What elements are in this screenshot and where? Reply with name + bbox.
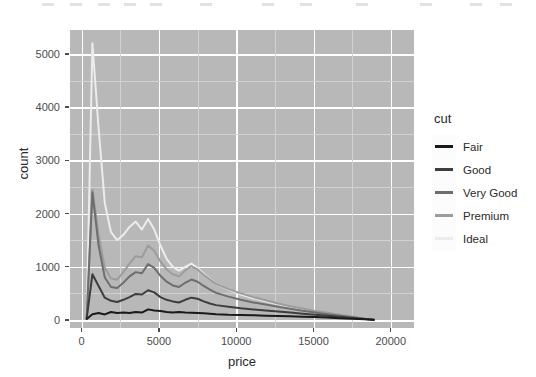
x-tick-mark [81, 328, 82, 332]
chart-page: 010002000300040005000 050001000015000200… [0, 0, 536, 377]
y-tick-label: 4000 [14, 102, 60, 112]
legend-line-icon [435, 168, 453, 170]
x-tick-label: 10000 [201, 336, 271, 347]
legend-line-icon [435, 214, 453, 216]
legend-line-icon [435, 191, 453, 193]
x-tick-mark [236, 328, 237, 332]
legend-key-swatch [432, 158, 456, 181]
legend-line-icon [435, 237, 453, 239]
legend-line-icon [435, 145, 453, 147]
legend: cut FairGoodVery GoodPremiumIdeal [432, 111, 532, 250]
legend-item-label: Ideal [463, 233, 488, 245]
legend-item-label: Premium [463, 210, 509, 222]
legend-item-premium[interactable]: Premium [432, 204, 532, 227]
series-line-very-good [87, 192, 374, 319]
x-tick-mark [313, 328, 314, 332]
x-tick-label: 15000 [279, 336, 349, 347]
x-axis-title: price [70, 354, 414, 369]
y-tick-mark [65, 266, 69, 267]
y-tick-mark [65, 106, 69, 107]
x-tick-label: 5000 [124, 336, 194, 347]
y-tick-label: 0 [14, 315, 60, 325]
legend-item-label: Very Good [463, 187, 517, 199]
legend-item-good[interactable]: Good [432, 158, 532, 181]
legend-title: cut [432, 111, 532, 126]
legend-item-label: Good [463, 164, 491, 176]
legend-key-swatch [432, 204, 456, 227]
plot-area: 010002000300040005000 050001000015000200… [0, 6, 536, 377]
x-tick-label: 20000 [356, 336, 426, 347]
x-tick-mark [158, 328, 159, 332]
y-tick-mark [65, 160, 69, 161]
legend-item-fair[interactable]: Fair [432, 135, 532, 158]
x-tick-mark [390, 328, 391, 332]
y-tick-label: 2000 [14, 209, 60, 219]
legend-item-ideal[interactable]: Ideal [432, 227, 532, 250]
legend-item-label: Fair [463, 141, 483, 153]
series-lines [70, 30, 414, 328]
y-tick-mark [65, 53, 69, 54]
y-tick-mark [65, 319, 69, 320]
series-line-premium [87, 190, 374, 320]
legend-key-swatch [432, 227, 456, 250]
legend-items: FairGoodVery GoodPremiumIdeal [432, 135, 532, 250]
series-line-ideal [87, 43, 374, 319]
legend-key-swatch [432, 135, 456, 158]
y-tick-mark [65, 213, 69, 214]
y-axis-title: count [16, 119, 31, 209]
y-tick-label: 1000 [14, 262, 60, 272]
x-tick-label: 0 [47, 336, 117, 347]
plot-panel [70, 30, 414, 328]
legend-key-swatch [432, 181, 456, 204]
y-tick-label: 5000 [14, 49, 60, 59]
legend-item-very-good[interactable]: Very Good [432, 181, 532, 204]
